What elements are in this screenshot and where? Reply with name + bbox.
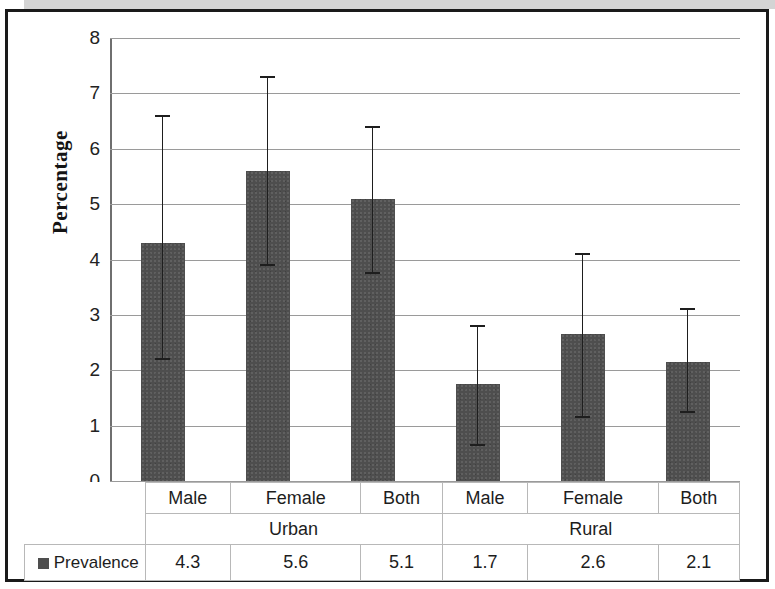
error-bar-cap-upper	[575, 253, 590, 255]
chart-figure: Percentage 012345678 Male Female Both Ma…	[0, 0, 775, 589]
error-bar-cap-lower	[365, 272, 380, 274]
bar-column	[425, 38, 530, 481]
table-cell-category: Female	[528, 483, 658, 514]
bar-column	[320, 38, 425, 481]
table-row-values: Prevalence 4.3 5.6 5.1 1.7 2.6 2.1	[25, 545, 740, 581]
bar-column	[530, 38, 635, 481]
error-bar-cap-lower	[155, 358, 170, 360]
data-table: Male Female Both Male Female Both Urban …	[24, 482, 740, 581]
table-corner-blank	[25, 514, 146, 545]
y-axis-tick-labels: 012345678	[70, 38, 100, 481]
table-cell-value: 5.1	[361, 545, 442, 581]
error-bar-line	[687, 309, 689, 411]
bar-column	[110, 38, 215, 481]
legend-swatch-icon	[38, 558, 49, 569]
legend-label: Prevalence	[54, 553, 139, 572]
table-cell-value: 2.1	[658, 545, 739, 581]
y-axis-tick-label: 6	[89, 138, 100, 160]
bar-column	[215, 38, 320, 481]
table-row-groups: Urban Rural	[25, 514, 740, 545]
plot-area	[110, 38, 740, 481]
bar-column	[635, 38, 740, 481]
error-bar-cap-upper	[680, 308, 695, 310]
table-cell-group: Rural	[442, 514, 739, 545]
error-bar-cap-lower	[260, 264, 275, 266]
error-bar-line	[372, 127, 374, 274]
y-axis-tick-label: 8	[89, 27, 100, 49]
y-axis-tick-label: 3	[89, 304, 100, 326]
table-cell-group: Urban	[145, 514, 442, 545]
table-cell-category: Male	[145, 483, 231, 514]
table-cell-category: Both	[361, 483, 442, 514]
error-bar-cap-lower	[680, 411, 695, 413]
error-bar-line	[267, 77, 269, 265]
error-bar-cap-upper	[470, 325, 485, 327]
table-cell-category: Female	[231, 483, 361, 514]
table-cell-category: Male	[442, 483, 528, 514]
y-axis-tick-label: 1	[89, 415, 100, 437]
table-cell-value: 1.7	[442, 545, 528, 581]
table-cell-value: 5.6	[231, 545, 361, 581]
y-axis-tick-label: 2	[89, 359, 100, 381]
table-cell-category: Both	[658, 483, 739, 514]
error-bar-line	[477, 326, 479, 445]
error-bar-cap-upper	[365, 126, 380, 128]
legend-entry-prevalence: Prevalence	[25, 545, 146, 581]
error-bar-line	[582, 254, 584, 417]
error-bar-cap-lower	[470, 444, 485, 446]
table-corner-blank	[25, 483, 146, 514]
error-bar-cap-lower	[575, 416, 590, 418]
table-cell-value: 4.3	[145, 545, 231, 581]
error-bar-line	[162, 116, 164, 360]
error-bar-cap-upper	[260, 76, 275, 78]
table-cell-value: 2.6	[528, 545, 658, 581]
table-row-categories: Male Female Both Male Female Both	[25, 483, 740, 514]
y-axis-tick-label: 5	[89, 193, 100, 215]
y-axis-tick-label: 7	[89, 82, 100, 104]
y-axis-tick-label: 4	[89, 249, 100, 271]
error-bar-cap-upper	[155, 115, 170, 117]
